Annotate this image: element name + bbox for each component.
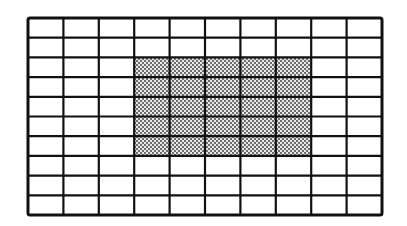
shaded-region bbox=[134, 57, 311, 155]
grid-lines bbox=[28, 18, 382, 215]
grid-diagram bbox=[0, 0, 407, 226]
